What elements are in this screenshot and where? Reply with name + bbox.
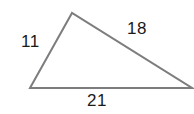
side-length-label-bottom: 21 [87, 92, 107, 109]
triangle-outline [30, 13, 192, 88]
side-length-label-left: 11 [21, 33, 40, 50]
triangle-figure: 11 18 21 [0, 0, 194, 114]
side-length-label-right: 18 [127, 20, 147, 37]
